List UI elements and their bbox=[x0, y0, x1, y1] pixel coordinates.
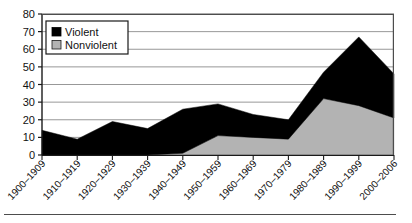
y-tick-label: 30 bbox=[23, 96, 35, 108]
legend-label-violent: Violent bbox=[65, 26, 98, 38]
y-tick-label: 80 bbox=[23, 8, 35, 20]
y-tick-label: 70 bbox=[23, 26, 35, 38]
y-tick-label: 0 bbox=[29, 149, 35, 161]
chart-legend: Violent Nonviolent bbox=[46, 21, 128, 54]
y-tick-label: 60 bbox=[23, 43, 35, 55]
y-tick-label: 50 bbox=[23, 61, 35, 73]
y-tick-label: 10 bbox=[23, 131, 35, 143]
legend-label-nonviolent: Nonviolent bbox=[65, 39, 117, 51]
y-tick-label: 40 bbox=[23, 79, 35, 91]
black-square-icon bbox=[52, 28, 61, 37]
gray-square-icon bbox=[52, 41, 61, 50]
chart-figure: 01020304050607080 1900–19091910–19191920… bbox=[0, 0, 412, 223]
y-tick-label: 20 bbox=[23, 114, 35, 126]
stacked-area-chart: 01020304050607080 1900–19091910–19191920… bbox=[0, 0, 412, 223]
y-axis-tick-labels: 01020304050607080 bbox=[23, 8, 35, 161]
